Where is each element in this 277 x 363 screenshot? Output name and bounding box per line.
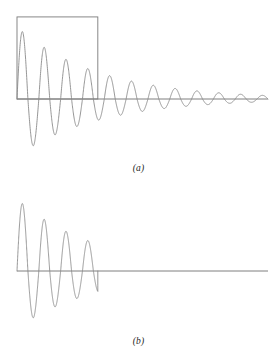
panel-a-label: (a) xyxy=(0,163,277,173)
panel-b-label: (b) xyxy=(0,336,277,346)
figure-container: (a) (b) xyxy=(0,0,277,363)
damped-oscillation-curve xyxy=(17,32,268,146)
truncated-oscillation-curve xyxy=(17,204,98,318)
panel-a-plot xyxy=(0,0,277,185)
caption-fragment xyxy=(0,352,277,363)
panel-a xyxy=(0,0,277,185)
truncation-window-rect xyxy=(17,17,98,99)
